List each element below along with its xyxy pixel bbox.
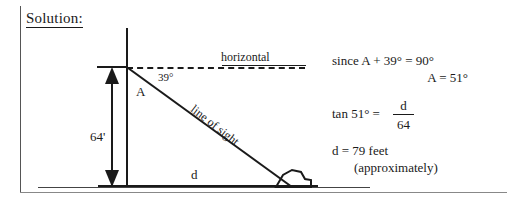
work-line-5: (approximately) [332, 159, 502, 176]
page-title: Solution: [26, 9, 83, 28]
angle-of-depression-label: 39° [158, 71, 173, 83]
fraction: d 64 [393, 97, 414, 133]
fraction-numerator: d [393, 97, 414, 115]
work-line-3: tan 51° = d 64 [332, 97, 502, 133]
page-bottom-rule [20, 192, 507, 193]
work-line-4: d = 79 feet [332, 142, 502, 159]
horizontal-dashed-line [127, 67, 305, 69]
horizontal-label: horizontal [221, 50, 270, 65]
solution-page: Solution: 64' 39° A horizontal d line of… [0, 0, 510, 207]
horizontal-label-underline [222, 65, 306, 66]
work-line-2: A = 51° [332, 69, 502, 86]
vertical-pole-line [126, 28, 128, 188]
worked-solution: since A + 39° = 90° A = 51° tan 51° = d … [332, 52, 502, 176]
tan-expression: tan 51° = [332, 106, 380, 121]
ground-line-bold [98, 185, 318, 187]
work-line-1: since A + 39° = 90° [332, 52, 502, 69]
height-arrow-up-icon [105, 67, 119, 84]
line-of-sight-label: line of sight [187, 102, 241, 149]
height-dimension-line [111, 70, 113, 185]
ground-line [38, 187, 370, 188]
base-distance-label: d [191, 167, 198, 183]
height-arrow-down-icon [105, 170, 119, 187]
page-left-rule [20, 6, 21, 193]
fraction-denominator: 64 [393, 115, 414, 133]
vertex-angle-label: A [136, 84, 145, 100]
height-label: 64' [88, 128, 107, 146]
